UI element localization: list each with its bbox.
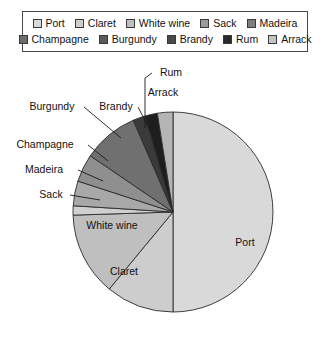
legend-entry-brandy[interactable]: Brandy: [167, 34, 213, 45]
legend-swatch-burgundy: [99, 35, 108, 44]
pie-label-burgundy: Burgundy: [30, 100, 76, 112]
pie-label-champagne: Champagne: [16, 138, 73, 150]
legend-swatch-sack: [200, 19, 209, 28]
legend-swatch-rum: [223, 35, 232, 44]
legend-label-claret: Claret: [88, 18, 116, 29]
legend-swatch-brandy: [167, 35, 176, 44]
legend-swatch-champagne: [19, 35, 28, 44]
legend-swatch-port: [33, 19, 42, 28]
legend-label-champagne: Champagne: [32, 34, 89, 45]
legend-label-rum: Rum: [236, 34, 258, 45]
chart-legend: Port Claret White wine Sack Madeira: [22, 11, 308, 52]
legend-entry-white-wine[interactable]: White wine: [126, 18, 190, 29]
legend-swatch-claret: [75, 19, 84, 28]
legend-entry-madeira[interactable]: Madeira: [247, 18, 298, 29]
pie-label-madeira: Madeira: [25, 163, 63, 175]
legend-label-white-wine: White wine: [139, 18, 190, 29]
legend-entry-arrack[interactable]: Arrack: [268, 34, 311, 45]
legend-swatch-madeira: [247, 19, 256, 28]
pie-label-arrack: Arrack: [148, 86, 179, 98]
pie-label-brandy: Brandy: [99, 100, 133, 112]
legend-swatch-arrack: [268, 35, 277, 44]
legend-row-1: Port Claret White wine Sack Madeira: [27, 15, 303, 31]
legend-entry-port[interactable]: Port: [33, 18, 65, 29]
legend-label-madeira: Madeira: [260, 18, 298, 29]
pie-label-claret: Claret: [110, 265, 138, 277]
pie-label-white-wine: White wine: [86, 219, 138, 231]
pie-label-port: Port: [235, 236, 254, 248]
legend-label-brandy: Brandy: [180, 34, 213, 45]
legend-label-port: Port: [46, 18, 65, 29]
legend-label-burgundy: Burgundy: [112, 34, 157, 45]
legend-entry-rum[interactable]: Rum: [223, 34, 258, 45]
legend-swatch-white-wine: [126, 19, 135, 28]
legend-label-sack: Sack: [213, 18, 236, 29]
legend-row-2: Champagne Burgundy Brandy Rum Arrack: [27, 31, 303, 47]
legend-entry-claret[interactable]: Claret: [75, 18, 116, 29]
legend-entry-burgundy[interactable]: Burgundy: [99, 34, 157, 45]
legend-label-arrack: Arrack: [281, 34, 311, 45]
pie-slices-group: [73, 112, 273, 312]
pie-slice-port[interactable]: [173, 112, 273, 312]
pie-chart-figure: PortClaretWhite wineSackMadeiraChampagne…: [0, 0, 327, 337]
pie-label-rum: Rum: [160, 66, 182, 78]
legend-entry-sack[interactable]: Sack: [200, 18, 236, 29]
legend-entry-champagne[interactable]: Champagne: [19, 34, 89, 45]
pie-label-sack: Sack: [39, 188, 63, 200]
